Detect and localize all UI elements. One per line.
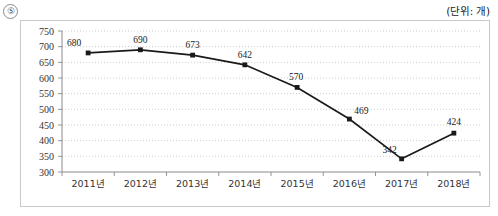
chart-screenshot: ⑤ (단위: 개) 300350400450500550600650700750… [0, 0, 498, 216]
unit-note-label: (단위: 개) [446, 3, 490, 18]
chart-frame [20, 20, 490, 207]
question-number-badge: ⑤ [3, 4, 18, 19]
